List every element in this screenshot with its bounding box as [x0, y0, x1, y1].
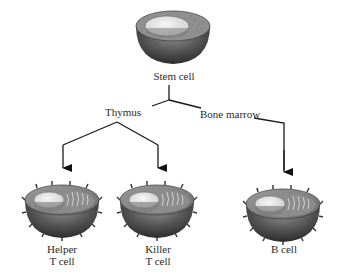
thymus-label: Thymus	[93, 106, 153, 118]
b-cell-image	[243, 185, 323, 245]
b-cell-label: B cell	[244, 243, 324, 255]
cell-lineage-diagram: Stem cell Thymus Bone marrow Helper T ce…	[0, 0, 345, 278]
connector-lines	[63, 85, 284, 172]
helper-label-line1: Helper	[22, 243, 102, 255]
helper-t-cell-image	[22, 181, 102, 241]
stem-cell-label: Stem cell	[134, 70, 214, 82]
helper-t-cell-label: Helper T cell	[22, 243, 102, 267]
stem-cell-image	[136, 11, 210, 64]
killer-label-line2: T cell	[118, 255, 198, 267]
diagram-graphics	[0, 0, 345, 278]
killer-label-line1: Killer	[118, 243, 198, 255]
killer-t-cell-label: Killer T cell	[118, 243, 198, 267]
bone-marrow-label: Bone marrow	[200, 108, 290, 120]
helper-label-line2: T cell	[22, 255, 102, 267]
killer-t-cell-image	[117, 181, 197, 241]
